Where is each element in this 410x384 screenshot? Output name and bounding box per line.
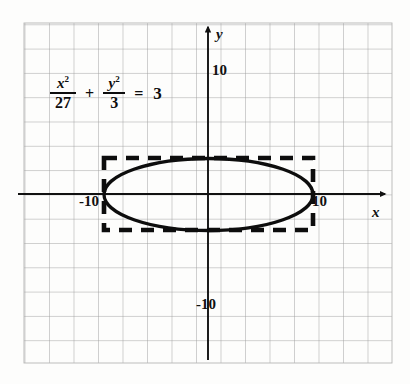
equation-annotation: x2 27 + y2 3 = 3 <box>48 76 162 111</box>
x-axis-tick-label-negative: -10 <box>79 194 99 209</box>
fraction-x-squared-over-27: x2 27 <box>50 76 76 111</box>
variable-x: x <box>57 75 65 91</box>
x-axis-label: x <box>372 205 380 220</box>
exponent-two: 2 <box>115 74 120 84</box>
plus-operator: + <box>85 86 94 102</box>
x-axis-tick-label-positive: 10 <box>312 194 327 209</box>
fraction-denominator: 3 <box>105 94 123 111</box>
y-axis-label: y <box>216 27 223 42</box>
fraction-numerator: y2 <box>104 76 125 92</box>
equals-operator: = <box>134 86 143 102</box>
y-axis-tick-label-positive: 10 <box>212 63 227 78</box>
equation-right-side: 3 <box>153 85 162 102</box>
fraction-denominator: 27 <box>50 94 76 111</box>
fraction-numerator: x2 <box>52 76 74 92</box>
fraction-y-squared-over-3: y2 3 <box>103 76 125 111</box>
plot-canvas <box>0 0 410 384</box>
y-axis-tick-label-negative: -10 <box>196 297 216 312</box>
graph-figure: 10 -10 -10 10 y x x2 27 + y2 3 = 3 <box>0 0 410 384</box>
exponent-two: 2 <box>65 74 70 84</box>
